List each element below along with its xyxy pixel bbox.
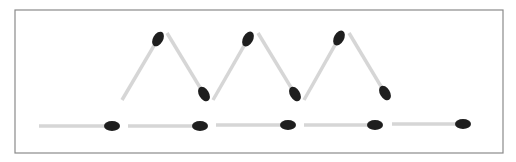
puzzle-canvas bbox=[0, 0, 516, 162]
horizontal-matches bbox=[39, 119, 471, 131]
match-stick bbox=[258, 33, 293, 91]
zigzag-match-6[interactable] bbox=[349, 33, 393, 102]
match-head bbox=[192, 121, 208, 131]
match-stick bbox=[304, 41, 337, 100]
match-head bbox=[455, 119, 471, 129]
match-head bbox=[367, 120, 383, 130]
horizontal-match-3[interactable] bbox=[216, 120, 296, 130]
matchstick-puzzle bbox=[0, 0, 516, 162]
match-head bbox=[280, 120, 296, 130]
horizontal-match-5[interactable] bbox=[392, 119, 471, 129]
match-stick bbox=[122, 42, 156, 100]
zigzag-match-1[interactable] bbox=[122, 30, 166, 100]
horizontal-match-2[interactable] bbox=[128, 121, 208, 131]
match-head bbox=[104, 121, 120, 131]
zigzag-matches bbox=[122, 29, 393, 104]
match-stick bbox=[349, 33, 383, 90]
match-stick bbox=[167, 33, 202, 91]
puzzle-frame bbox=[15, 10, 503, 153]
zigzag-match-4[interactable] bbox=[258, 33, 303, 103]
zigzag-match-3[interactable] bbox=[213, 30, 256, 100]
horizontal-match-4[interactable] bbox=[304, 120, 383, 130]
match-head bbox=[331, 29, 348, 48]
zigzag-match-2[interactable] bbox=[167, 33, 212, 103]
zigzag-match-5[interactable] bbox=[304, 29, 347, 100]
match-head bbox=[240, 30, 257, 49]
match-stick bbox=[213, 42, 246, 100]
horizontal-match-1[interactable] bbox=[39, 121, 120, 131]
